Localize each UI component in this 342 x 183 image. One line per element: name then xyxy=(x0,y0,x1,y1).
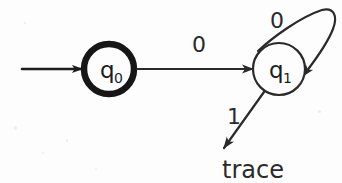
automaton-diagram: q 0 0 0 q 1 1 trace xyxy=(0,0,342,183)
edge-q0-to-q1-label: 0 xyxy=(192,32,206,57)
state-q1-label: q xyxy=(269,57,284,83)
state-q1-subscript: 1 xyxy=(283,70,292,86)
state-q1[interactable]: q 1 xyxy=(253,43,305,95)
edge-q1-to-trace-label: 1 xyxy=(227,104,241,129)
terminal-trace-label: trace xyxy=(222,156,284,183)
edge-q1-self-loop-label: 0 xyxy=(270,8,284,33)
diagram-canvas: q 0 0 0 q 1 1 trace xyxy=(0,0,342,183)
state-q0[interactable]: q 0 xyxy=(84,44,134,94)
edge-q1-to-trace: 1 xyxy=(224,92,264,148)
state-q0-subscript: 0 xyxy=(114,70,123,86)
state-q0-label: q xyxy=(100,57,115,83)
edge-q0-to-q1: 0 xyxy=(137,32,253,69)
